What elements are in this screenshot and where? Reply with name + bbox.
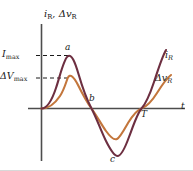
vmax-symbol: ΔV	[0, 70, 14, 81]
plot-canvas	[0, 0, 193, 171]
voltage-curve-symbol: Δv	[155, 72, 167, 83]
y-axis-voltage-symbol: Δv	[59, 8, 72, 19]
period-label-T: T	[141, 110, 147, 119]
imax-tick-label: Imax	[2, 49, 19, 59]
voltage-curve-label: ΔvR	[155, 73, 172, 83]
vmax-tick-label: ΔVmax	[0, 71, 27, 81]
point-label-a: a	[65, 43, 70, 52]
voltage-curve	[42, 75, 172, 139]
ac-resistor-waveform-figure: iR, ΔvR t Imax ΔVmax a b c T iR ΔvR	[0, 0, 193, 171]
voltage-curve-subscript: R	[167, 77, 172, 85]
current-curve-subscript: R	[168, 54, 173, 62]
vmax-subscript: max	[14, 75, 28, 83]
y-axis-current-subscript: R	[47, 13, 52, 21]
current-curve-label: iR	[165, 50, 173, 60]
point-label-b: b	[89, 94, 95, 103]
y-axis-voltage-subscript: R	[72, 13, 77, 21]
point-label-c: c	[110, 155, 115, 164]
imax-subscript: max	[6, 53, 20, 61]
y-axis-label: iR, ΔvR	[44, 9, 77, 19]
current-curve	[42, 50, 167, 156]
x-axis-label: t	[181, 102, 185, 111]
